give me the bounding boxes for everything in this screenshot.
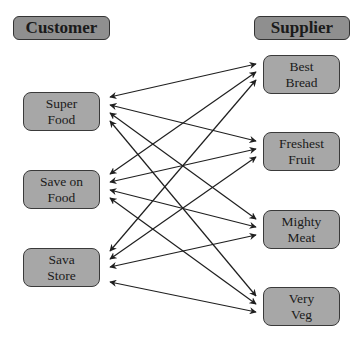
customer-node-sava-store: Sava Store xyxy=(23,248,100,287)
customer-label: Super Food xyxy=(46,96,78,127)
arrow-savastore-bestbread xyxy=(110,80,256,251)
customer-header-label: Customer xyxy=(26,18,98,38)
customer-label: Sava Store xyxy=(47,252,76,283)
customer-supplier-diagram: Customer Supplier Super Food Save on Foo… xyxy=(0,0,363,342)
supplier-label: Very Veg xyxy=(289,291,315,322)
arrow-savastore-mightymeat xyxy=(110,235,256,267)
supplier-label: Mighty Meat xyxy=(282,214,322,245)
supplier-node-mighty-meat: Mighty Meat xyxy=(263,210,340,249)
supplier-label: Best Bread xyxy=(285,59,317,90)
arrow-superfood-bestbread xyxy=(110,64,256,97)
supplier-node-best-bread: Best Bread xyxy=(263,55,340,94)
customer-node-save-on-food: Save on Food xyxy=(23,170,100,209)
arrow-saveonfood-bestbread xyxy=(110,72,256,174)
arrow-savastore-veryveg xyxy=(110,282,256,312)
supplier-node-freshest-fruit: Freshest Fruit xyxy=(263,132,340,171)
supplier-label: Freshest Fruit xyxy=(279,136,324,167)
customer-label: Save on Food xyxy=(40,174,83,205)
supplier-node-very-veg: Very Veg xyxy=(263,287,340,326)
supplier-header: Supplier xyxy=(254,16,350,40)
customer-node-super-food: Super Food xyxy=(23,92,100,131)
supplier-header-label: Supplier xyxy=(271,18,333,38)
customer-header: Customer xyxy=(13,16,110,40)
arrow-savastore-freshestfruit xyxy=(110,157,256,259)
